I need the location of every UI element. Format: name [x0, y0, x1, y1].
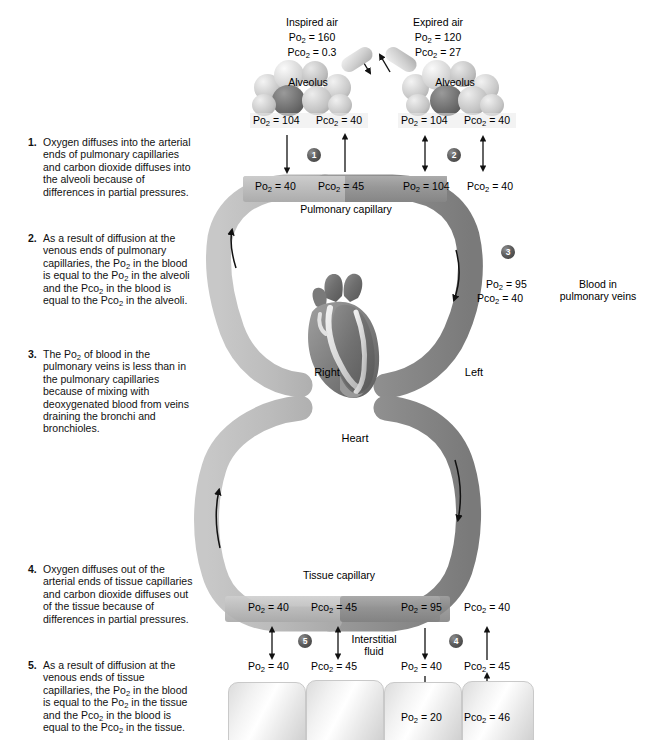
step-2-text: As a result of diffusion at the venous e…: [43, 232, 196, 306]
step-2-number: 2.: [28, 232, 37, 244]
alveolus-right-po2: Po2 = 104: [401, 114, 448, 126]
pulmonary-venous-pco2: Pco2 = 40: [467, 180, 513, 192]
interstitial-venous-pco2: Pco2 = 45: [311, 660, 357, 672]
heart-right-label: Right: [314, 366, 340, 378]
pulmonary-capillary-label: Pulmonary capillary: [300, 203, 392, 215]
pulmonary-venous-po2: Po2 = 104: [403, 180, 450, 192]
heart-illustration: [296, 272, 388, 410]
step-3-text: The Po2 of blood in the pulmonary veins …: [43, 348, 196, 435]
badge-3: 3: [501, 245, 515, 259]
heart-label: Heart: [342, 432, 369, 444]
pulmonary-veins-pco2: Pco2 = 40: [477, 292, 523, 304]
tissue-venous-po2: Po2 = 40: [248, 601, 289, 613]
pulmonary-veins-label: Blood inpulmonary veins: [548, 278, 648, 303]
badge-4: 4: [449, 634, 463, 648]
tissue-arterial-po2: Po2 = 95: [401, 601, 442, 613]
alveolus-cluster-right: [400, 58, 510, 120]
interstitial-venous-po2: Po2 = 40: [248, 660, 289, 672]
step-5-text: As a result of diffusion at the venous e…: [43, 659, 196, 733]
badge-2: 2: [447, 148, 461, 162]
badge-1: 1: [307, 148, 321, 162]
alveolus-left-po2: Po2 = 104: [253, 114, 300, 126]
tissue-capillary-label: Tissue capillary: [303, 569, 375, 581]
pulmonary-arterial-po2: Po2 = 40: [255, 180, 296, 192]
step-3: 3. The Po2 of blood in the pulmonary vei…: [28, 348, 196, 435]
step-5: 5. As a result of diffusion at the venou…: [28, 659, 196, 733]
step-3-number: 3.: [28, 348, 37, 360]
alveolus-label-left: Alveolus: [288, 76, 328, 88]
tissue-cells: [228, 676, 528, 740]
inspired-air-po2: Po2 = 160: [289, 31, 336, 43]
step-1: 1. Oxygen diffuses into the arterial end…: [28, 136, 196, 198]
step-2: 2. As a result of diffusion at the venou…: [28, 232, 196, 306]
interstitial-arterial-po2: Po2 = 40: [401, 660, 442, 672]
expired-air-pco2: Pco2 = 27: [415, 46, 461, 58]
pulmonary-arterial-pco2: Pco2 = 45: [318, 180, 364, 192]
alveolus-right-pco2: Pco2 = 40: [464, 114, 510, 126]
step-4-text: Oxygen diffuses out of the arterial ends…: [43, 563, 196, 625]
step-4-number: 4.: [28, 563, 37, 575]
inspired-air-pco2: Pco2 = 0.3: [288, 46, 337, 58]
expired-air-po2: Po2 = 120: [415, 31, 462, 43]
inspired-air-label: Inspired air: [286, 16, 338, 28]
cell-po2: Po2 = 20: [401, 711, 442, 723]
diagram-canvas: Inspired air Po2 = 160 Pco2 = 0.3 Expire…: [0, 0, 650, 740]
alveolus-label-right: Alveolus: [435, 76, 475, 88]
interstitial-fluid-label: Interstitialfluid: [336, 633, 412, 658]
alveolus-left-pco2: Pco2 = 40: [316, 114, 362, 126]
step-1-number: 1.: [28, 136, 37, 148]
heart-left-label: Left: [465, 366, 483, 378]
step-5-number: 5.: [28, 659, 37, 671]
step-1-text: Oxygen diffuses into the arterial ends o…: [43, 136, 196, 198]
expired-air-label: Expired air: [413, 16, 463, 28]
tissue-venous-pco2: Pco2 = 45: [311, 601, 357, 613]
interstitial-arterial-pco2: Pco2 = 45: [464, 660, 510, 672]
badge-5: 5: [298, 634, 312, 648]
step-4: 4. Oxygen diffuses out of the arterial e…: [28, 563, 196, 625]
tissue-arterial-pco2: Pco2 = 40: [464, 601, 510, 613]
pulmonary-veins-po2: Po2 = 95: [486, 278, 527, 290]
cell-pco2: Pco2 = 46: [464, 711, 510, 723]
alveolus-cluster-left: [252, 58, 362, 120]
